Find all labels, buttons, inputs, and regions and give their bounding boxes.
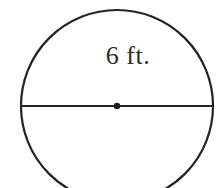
dimension-label: 6 ft. — [98, 42, 158, 70]
center-point-dot — [114, 103, 120, 109]
geometry-figure: 6 ft. — [0, 0, 220, 188]
figure-background — [0, 0, 220, 188]
circle-diagram-canvas — [0, 0, 220, 188]
